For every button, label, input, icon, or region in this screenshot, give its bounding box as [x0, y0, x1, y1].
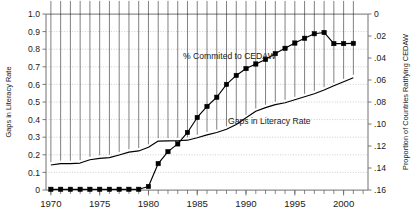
x-axis-tick-label: 1995 [284, 198, 305, 209]
x-axis-tick-label: 1975 [89, 198, 110, 209]
x-axis-tick-label: 2000 [333, 198, 354, 209]
y-axis-tick-label: 0.1 [28, 168, 40, 178]
x-axis-tick-label: 1985 [187, 198, 208, 209]
y2-axis-tick-label: .10 [374, 119, 386, 129]
series-marker [332, 41, 336, 45]
series-annotation-0: % Commited to CEDAW [183, 51, 277, 61]
series-marker [137, 187, 141, 191]
y-axis-tick-label: 0.6 [28, 80, 40, 90]
y2-axis-tick-label: .06 [374, 75, 386, 85]
y-axis-tick-label: 0.7 [28, 62, 40, 72]
y-axis-title: Gaps in Literacy Rate [4, 66, 13, 137]
y2-axis-tick-label: 0 [374, 9, 379, 19]
series-marker [127, 187, 131, 191]
series-marker [117, 187, 121, 191]
series-marker [176, 142, 180, 146]
y-axis-tick-label: 0.3 [28, 132, 40, 142]
y-axis-tick-label: 0.8 [28, 44, 40, 54]
series-marker [293, 41, 297, 45]
series-marker [224, 82, 228, 86]
series-marker [215, 95, 219, 99]
y2-axis-title: Proportion of Countries Ratifying CEDAW [401, 34, 410, 170]
y2-axis-tick-label: .12 [374, 141, 386, 151]
series-marker [68, 187, 72, 191]
y-axis-tick-label: 1.0 [28, 9, 40, 19]
series-marker [166, 149, 170, 153]
chart-container: 1.00.90.80.70.60.50.40.30.20.100.02.04.0… [0, 0, 417, 224]
series-marker [322, 30, 326, 34]
dual-axis-line-chart: 1.00.90.80.70.60.50.40.30.20.100.02.04.0… [0, 0, 417, 224]
y-axis-tick-label: 0.2 [28, 150, 40, 160]
x-axis-tick-label: 1990 [235, 198, 256, 209]
y2-axis-tick-label: .04 [374, 53, 386, 63]
series-marker [97, 187, 101, 191]
series-marker [244, 66, 248, 70]
series-marker [205, 104, 209, 108]
series-marker [107, 187, 111, 191]
series-marker [302, 36, 306, 40]
y-axis-tick-label: 0.4 [28, 115, 40, 125]
series-marker [49, 187, 53, 191]
series-marker [351, 41, 355, 45]
series-marker [58, 187, 62, 191]
y2-axis-tick-label: .02 [374, 31, 386, 41]
series-marker [254, 62, 258, 66]
y2-axis-tick-label: .14 [374, 163, 386, 173]
y2-axis-tick-label: .08 [374, 97, 386, 107]
series-marker [312, 32, 316, 36]
series-marker [156, 161, 160, 165]
series-marker [78, 187, 82, 191]
y-axis-tick-label: 0 [35, 185, 40, 195]
series-marker [234, 73, 238, 77]
series-marker [88, 187, 92, 191]
y-axis-tick-label: 0.9 [28, 27, 40, 37]
series-marker [283, 46, 287, 50]
series-marker [185, 130, 189, 134]
y-axis-tick-label: 0.5 [28, 97, 40, 107]
series-marker [195, 115, 199, 119]
y2-axis-tick-label: .16 [374, 185, 386, 195]
series-marker [341, 41, 345, 45]
series-marker [146, 184, 150, 188]
x-axis-tick-label: 1970 [40, 198, 61, 209]
x-axis-tick-label: 1980 [138, 198, 159, 209]
series-annotation-1: Gaps in Literacy Rate [228, 116, 311, 126]
